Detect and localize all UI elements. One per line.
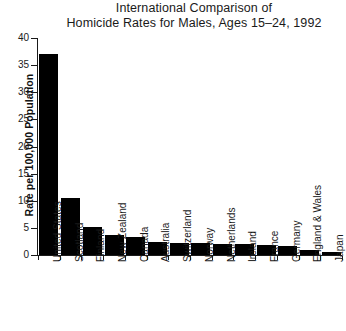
y-axis-tick-label: 15 [18,169,29,179]
y-axis-tick [31,119,37,120]
y-axis-tick [31,201,37,202]
y-axis-tick-label: 35 [18,60,29,70]
x-axis-label-netherlands: Netherlands [227,208,237,262]
y-axis-tick [31,255,37,256]
y-axis-tick-label: 40 [18,33,29,43]
x-axis-label-australia: Australia [161,223,171,262]
x-axis-label-ireland: Ireland [248,231,258,262]
x-axis-label-united-states: United States [53,201,63,262]
x-axis-label-switzerland: Switzerland [183,210,193,262]
x-axis-label-finland: Finland [96,229,106,262]
x-axis-label-norway: Norway [205,228,215,262]
page-margin-note-line: t- [0,279,12,292]
x-axis-label-england-wales: England & Wales [313,185,323,262]
y-axis-tick-label: 30 [18,87,29,97]
chart-title: International Comparison of Homicide Rat… [46,1,342,31]
y-axis-tick-label: 10 [18,196,29,206]
x-axis-label-scotland: Scotland [75,223,85,262]
chart-title-line-2: Homicide Rates for Males, Ages 15–24, 19… [46,16,342,31]
x-axis-label-germany: Germany [292,221,302,262]
x-axis-label-japan: Japan [335,235,345,263]
y-axis-tick [31,174,37,175]
y-axis-tick [31,147,37,148]
page-margin-note-line: is [0,292,12,305]
x-axis-tick [38,256,39,260]
page-margin-note-line: or [0,305,12,318]
x-axis-label-new-zealand: New Zealand [118,203,128,262]
y-axis-tick-label: 25 [18,114,29,124]
y-axis-tick-label: 20 [18,142,29,152]
y-axis-tick-label: 0 [23,250,29,260]
page-margin-note: S.t-isor [0,266,12,318]
page-margin-note-line: S. [0,266,12,279]
y-axis-tick-label: 5 [23,223,29,233]
y-axis-tick [31,38,37,39]
y-axis-tick [31,92,37,93]
x-axis-label-france: France [270,231,280,262]
y-axis-tick [31,65,37,66]
chart-title-line-1: International Comparison of [46,1,342,16]
x-axis-label-canada: Canada [140,227,150,262]
y-axis-tick [31,228,37,229]
